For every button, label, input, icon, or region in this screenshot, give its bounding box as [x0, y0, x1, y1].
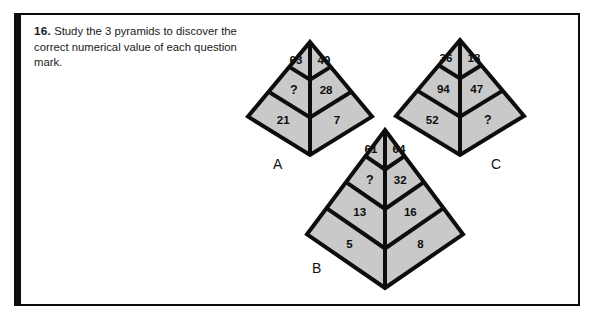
pyramid-label-a: A: [273, 156, 282, 172]
question-number: 16.: [34, 24, 51, 38]
pyramid-label-c: C: [491, 156, 501, 172]
pyramid-label-b: B: [312, 260, 321, 276]
question-text: 16. Study the 3 pyramids to discover the…: [34, 24, 249, 71]
page-canvas: 16. Study the 3 pyramids to discover the…: [0, 0, 596, 323]
question-body: Study the 3 pyramids to discover the cor…: [34, 25, 237, 68]
frame-left-bar: [14, 13, 21, 306]
